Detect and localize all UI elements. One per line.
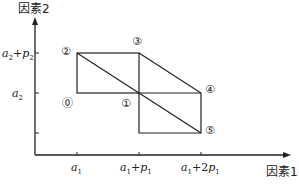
point-3-label: ③ [132, 35, 142, 48]
x-tick-a1-plus-p1: a1+p1 [120, 161, 152, 176]
x-axis-arrow-icon [283, 152, 291, 158]
point-5-label: ⑤ [205, 124, 215, 137]
point-4-label: ④ [205, 83, 215, 96]
x-tick-a1: a1 [71, 161, 82, 176]
y-tick-a2: a2 [12, 87, 23, 102]
x-tick-a1-plus-2p1: a1+2p1 [181, 161, 220, 176]
y-axis-label: 因素2 [18, 2, 50, 16]
factor-diagram: 因素2 因素1 a2+p2 a2 a1 a1+p1 a1+2p1 ⓪ ① ② ③… [0, 0, 299, 187]
point-0-label: ⓪ [62, 97, 73, 110]
y-tick-a2-plus-p2: a2+p2 [2, 47, 34, 62]
design-shapes [77, 53, 201, 133]
x-axis-label: 因素1 [266, 165, 298, 179]
point-2-label: ② [61, 45, 71, 58]
point-1-label: ① [121, 97, 131, 110]
y-axis-arrow-icon [32, 17, 38, 25]
